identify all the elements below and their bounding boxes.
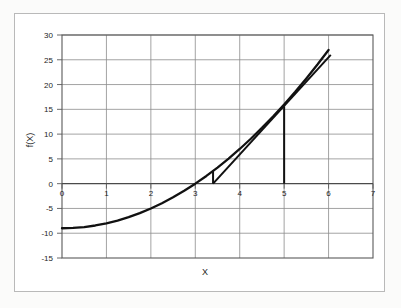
secant-line — [213, 55, 331, 184]
chart-plot: 30 25 20 15 10 5 0 -5 -10 -15 0 1 2 3 4 … — [0, 0, 401, 308]
x-tick-label: 3 — [193, 189, 198, 198]
x-tick-label: 5 — [282, 189, 287, 198]
x-tick-label: 6 — [326, 189, 331, 198]
vertical-gridlines — [106, 35, 328, 258]
x-tick-label: 4 — [237, 189, 242, 198]
figure-canvas: 30 25 20 15 10 5 0 -5 -10 -15 0 1 2 3 4 … — [0, 0, 401, 308]
y-tick-label: 10 — [44, 130, 53, 139]
x-tick-label: 0 — [60, 189, 65, 198]
y-tick-label: 30 — [44, 31, 53, 40]
y-tick-label: 0 — [49, 180, 54, 189]
y-axis-title: f(X) — [25, 133, 35, 148]
y-tick-label: -10 — [41, 229, 53, 238]
y-tick-label: -5 — [46, 204, 54, 213]
x-axis-tick-labels: 0 1 2 3 4 5 6 7 — [60, 189, 376, 198]
x-tick-label: 2 — [149, 189, 154, 198]
y-tick-label: 25 — [44, 56, 53, 65]
x-axis-title: X — [202, 267, 208, 277]
y-tick-label: 5 — [49, 155, 54, 164]
y-tick-label: 15 — [44, 105, 53, 114]
horizontal-gridlines — [62, 35, 373, 233]
x-tick-marks — [62, 184, 373, 189]
y-tick-marks — [57, 35, 62, 258]
x-tick-label: 7 — [371, 189, 376, 198]
x-tick-label: 1 — [104, 189, 109, 198]
y-tick-label: -15 — [41, 254, 53, 263]
y-axis-tick-labels: 30 25 20 15 10 5 0 -5 -10 -15 — [41, 31, 53, 263]
y-tick-label: 20 — [44, 81, 53, 90]
plot-area-border — [62, 35, 373, 258]
